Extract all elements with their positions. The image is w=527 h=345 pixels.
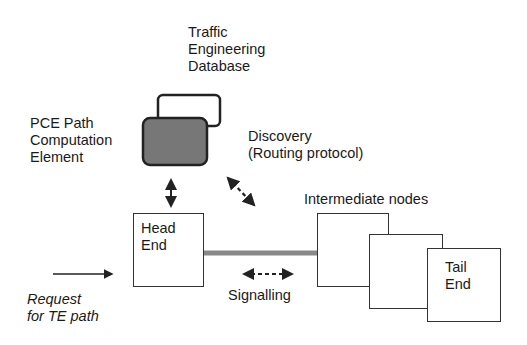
pce-label: PCE Path Computation Element	[30, 115, 112, 166]
discovery-arrow	[228, 178, 254, 205]
head-end-label: Head End	[141, 220, 176, 254]
tail-end-label: Tail End	[445, 259, 471, 293]
pce-box	[143, 118, 207, 165]
request-label: Request for TE path	[27, 291, 99, 325]
discovery-label: Discovery (Routing protocol)	[248, 128, 363, 162]
signalling-label: Signalling	[228, 287, 291, 304]
ted-label: Traffic Engineering Database	[188, 24, 265, 75]
intermediate-label: Intermediate nodes	[304, 191, 428, 208]
